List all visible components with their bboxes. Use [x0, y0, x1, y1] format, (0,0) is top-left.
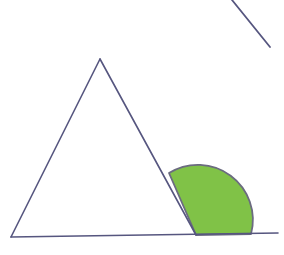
- geometry-figure-svg: [0, 0, 284, 255]
- figure-canvas: [0, 0, 284, 255]
